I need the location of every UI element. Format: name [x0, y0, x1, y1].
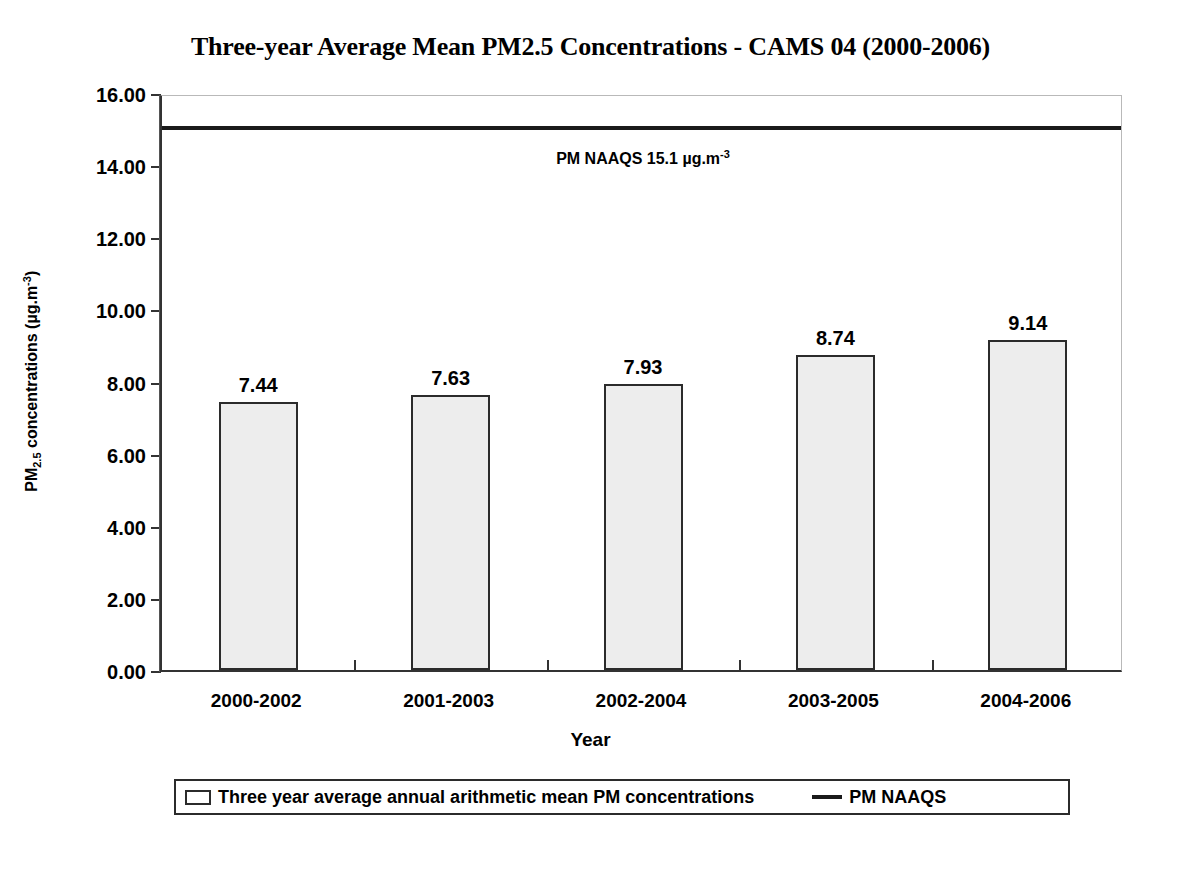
- x-axis-tick: [354, 660, 356, 670]
- bar-value-label-2000-2002: 7.44: [239, 374, 278, 397]
- y-tick-label-14.00: 14.00: [28, 156, 146, 179]
- y-axis-title-mid: concentrations (µg.m: [23, 286, 40, 453]
- y-tick-label-6.00: 6.00: [28, 444, 146, 467]
- y-tick-label-0.00: 0.00: [28, 661, 146, 684]
- x-category-label-2004-2006: 2004-2006: [980, 690, 1071, 712]
- bar-value-label-2002-2004: 7.93: [624, 356, 663, 379]
- x-axis-title: Year: [0, 729, 1181, 751]
- bar-2003-2005[interactable]: [796, 355, 875, 670]
- y-tick-label-8.00: 8.00: [28, 372, 146, 395]
- bar-value-label-2001-2003: 7.63: [431, 367, 470, 390]
- legend-bar-label: Three year average annual arithmetic mea…: [218, 787, 754, 808]
- y-axis-title-subscript: 2.5: [31, 452, 43, 467]
- x-axis-tick: [739, 660, 741, 670]
- x-axis-tick: [932, 660, 934, 670]
- naaqs-annotation-text: PM NAAQS 15.1 µg.m: [556, 151, 720, 168]
- bar-2000-2002[interactable]: [219, 402, 298, 670]
- naaqs-annotation-label: PM NAAQS 15.1 µg.m-3: [556, 148, 730, 168]
- naaqs-reference-line: [162, 126, 1121, 130]
- y-axis-title-main: PM: [23, 468, 40, 492]
- y-tick-label-10.00: 10.00: [28, 300, 146, 323]
- legend-line-label: PM NAAQS: [849, 787, 946, 808]
- y-tick-label-2.00: 2.00: [28, 588, 146, 611]
- plot-area: PM NAAQS 15.1 µg.m-3 7.447.637.938.749.1…: [160, 95, 1122, 672]
- legend-entry-bars: Three year average annual arithmetic mea…: [185, 787, 754, 808]
- chart-title: Three-year Average Mean PM2.5 Concentrat…: [0, 32, 1181, 62]
- legend-entry-naaqs: PM NAAQS: [812, 787, 946, 808]
- y-tick-label-16.00: 16.00: [28, 84, 146, 107]
- y-tick-label-12.00: 12.00: [28, 228, 146, 251]
- y-tick-label-4.00: 4.00: [28, 516, 146, 539]
- x-axis-tick: [547, 660, 549, 670]
- x-category-label-2001-2003: 2001-2003: [403, 690, 494, 712]
- legend-bar-swatch-icon: [185, 790, 211, 805]
- y-axis-title-end: ): [23, 271, 40, 276]
- bar-2001-2003[interactable]: [411, 395, 490, 670]
- bar-2004-2006[interactable]: [988, 340, 1067, 670]
- y-axis-title: PM2.5 concentrations (µg.m-3): [21, 121, 44, 641]
- x-category-label-2002-2004: 2002-2004: [596, 690, 687, 712]
- legend-line-swatch-icon: [812, 795, 842, 799]
- bar-2002-2004[interactable]: [604, 384, 683, 670]
- bar-value-label-2004-2006: 9.14: [1008, 312, 1047, 335]
- x-category-label-2003-2005: 2003-2005: [788, 690, 879, 712]
- x-category-label-2000-2002: 2000-2002: [211, 690, 302, 712]
- bar-value-label-2003-2005: 8.74: [816, 327, 855, 350]
- naaqs-annotation-superscript: -3: [720, 148, 730, 160]
- y-axis-title-superscript: -3: [21, 276, 33, 286]
- chart-legend: Three year average annual arithmetic mea…: [174, 779, 1070, 815]
